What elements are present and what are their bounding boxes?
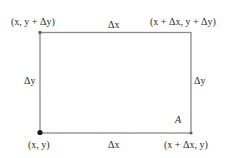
bottom-right-point bbox=[189, 131, 192, 134]
diagram-canvas: (x, y + Δy) (x + Δx, y + Δy) (x, y) (x +… bbox=[0, 0, 241, 158]
top-left-corner-label: (x, y + Δy) bbox=[11, 17, 55, 27]
left-edge-label: Δy bbox=[24, 76, 35, 86]
bottom-edge-label: Δx bbox=[108, 140, 119, 150]
top-left-point bbox=[38, 31, 42, 35]
rectangle-outline bbox=[40, 33, 191, 134]
bottom-left-corner-label: (x, y) bbox=[28, 140, 50, 150]
top-edge-label: Δx bbox=[108, 20, 119, 30]
bottom-left-point bbox=[37, 130, 42, 135]
top-right-corner-label: (x + Δx, y + Δy) bbox=[150, 17, 216, 27]
region-label: A bbox=[175, 115, 181, 125]
bottom-right-corner-label: (x + Δx, y) bbox=[164, 140, 208, 150]
right-edge-label: Δy bbox=[194, 76, 205, 86]
